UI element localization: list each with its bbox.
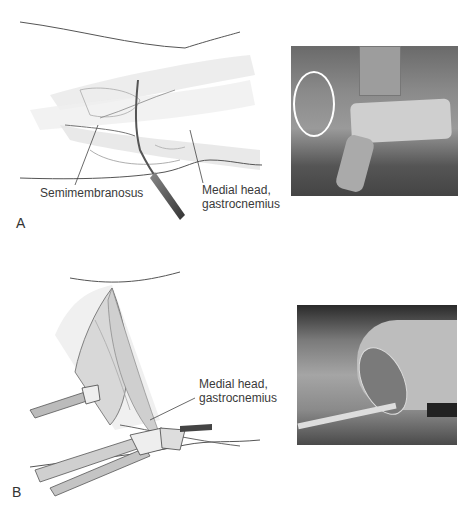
panel-letter-a: A: [16, 215, 25, 231]
label-semimembranosus: Semimembranosus: [40, 186, 143, 200]
panel-letter-b: B: [12, 484, 21, 500]
forceps-shape: [297, 403, 396, 430]
panel-b-photo: [297, 305, 457, 445]
monitor-shape: [359, 46, 401, 96]
label-medial-head-b-line1: Medial head,: [199, 377, 268, 391]
instrument-handle: [427, 403, 457, 417]
label-medial-head-a-line2: gastrocnemius: [202, 197, 280, 211]
panel-a-photo: [291, 46, 458, 196]
label-medial-head-b-line2: gastrocnemius: [199, 391, 277, 405]
label-medial-head-a-line1: Medial head,: [202, 183, 271, 197]
gloved-hand-shape: [334, 133, 375, 193]
knee-circle-marker: [293, 71, 335, 137]
